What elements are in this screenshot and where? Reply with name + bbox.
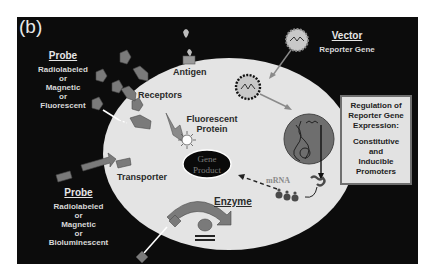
vector-subtitle: Reporter Gene xyxy=(307,45,387,54)
vector-label: Vector Reporter Gene xyxy=(307,30,387,54)
starburst-vector-icon xyxy=(286,29,308,51)
gene-product-label: Gene Product xyxy=(185,154,229,176)
enzyme-label: Enzyme xyxy=(214,196,252,208)
vector-title: Vector xyxy=(307,30,387,42)
receptors-label: Receptors xyxy=(138,90,182,100)
transporter-label: Transporter xyxy=(117,172,167,182)
antigen-label: Antigen xyxy=(173,67,207,77)
probe-top-label: Probe Radiolabeled or Magnetic or Fluore… xyxy=(28,50,98,110)
regulation-box: Regulation of Reporter Gene Expression: … xyxy=(340,95,412,185)
probe-bottom-title: Probe xyxy=(41,187,116,199)
probe-bottom-label: Probe Radiolabeled or Magnetic or Biolum… xyxy=(41,187,116,247)
mrna-label: mRNA xyxy=(266,176,290,185)
antigen-icon xyxy=(183,29,195,64)
diagram-panel: (b) Probe Radiolabeled or Magnetic or Fl… xyxy=(17,17,418,264)
panel-letter: (b) xyxy=(19,17,42,38)
starburst-vector-inner-icon xyxy=(236,75,260,99)
fluorescent-protein-label: Fluorescent Protein xyxy=(180,114,244,135)
diamond-probe-icon xyxy=(136,251,148,263)
probe-top-title: Probe xyxy=(28,50,98,62)
